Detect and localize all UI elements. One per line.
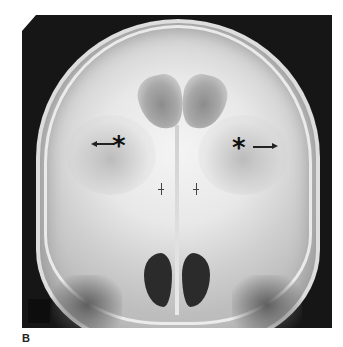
- nasal-septum: [175, 125, 179, 315]
- left-orbit: [66, 115, 156, 195]
- asterisk-icon-right: *: [232, 135, 246, 161]
- tick-mark-right-h: [193, 189, 199, 190]
- arrow-right-icon: [272, 143, 278, 149]
- asterisk-icon-left: *: [112, 133, 126, 159]
- left-maxillary-shadow: [52, 275, 122, 328]
- arrow-right-line: [253, 146, 273, 148]
- panel-label: B: [22, 332, 30, 344]
- film-marker: [28, 299, 50, 323]
- tick-mark-left-h: [158, 189, 164, 190]
- right-maxillary-shadow: [232, 275, 302, 328]
- skull-radiograph: [22, 15, 332, 328]
